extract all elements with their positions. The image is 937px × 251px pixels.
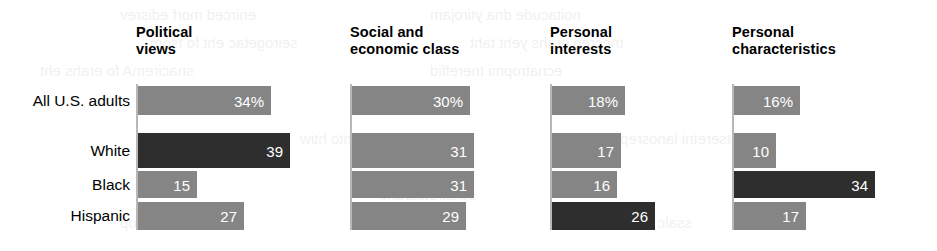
bar-personal-interests-hispanic: 26 [552, 202, 655, 230]
bar-political-views-black: 15 [138, 171, 197, 198]
bar-value-label: 26 [631, 209, 648, 224]
bar-value-label: 17 [782, 209, 799, 224]
bar-value-label: 15 [173, 177, 190, 192]
panel-personal-characteristics: Personal characteristics 16% 10 34 17 [732, 0, 937, 251]
panel-title-personal-interests: Personal interests [550, 24, 612, 58]
bar-value-label: 30% [433, 93, 463, 108]
bar-personal-characteristics-white: 10 [734, 133, 776, 168]
bar-political-views-hispanic: 27 [138, 202, 244, 230]
panel-personal-interests: Personal interests 18% 17 16 26 [550, 0, 730, 251]
row-label-hispanic: Hispanic [0, 208, 130, 224]
bar-social-and-economic-class-white: 31 [352, 133, 474, 168]
bar-social-and-economic-class-hispanic: 29 [352, 202, 466, 230]
bar-personal-interests-black: 16 [552, 171, 617, 198]
panel-title-political-views: Political views [136, 24, 193, 58]
bar-value-label: 16% [763, 93, 793, 108]
bar-personal-interests-all-us-adults: 18% [552, 86, 625, 115]
bar-personal-interests-white: 17 [552, 133, 621, 168]
bar-value-label: 39 [266, 143, 283, 158]
bar-political-views-all-us-adults: 34% [138, 86, 271, 115]
bar-value-label: 27 [220, 209, 237, 224]
bar-value-label: 18% [588, 93, 618, 108]
bar-personal-characteristics-black: 34 [734, 171, 875, 198]
bar-value-label: 29 [442, 209, 459, 224]
bar-value-label: 16 [593, 177, 610, 192]
row-label-all-us-adults: All U.S. adults [0, 93, 130, 109]
bar-value-label: 34% [234, 93, 264, 108]
row-label-black: Black [0, 177, 130, 193]
panel-title-personal-characteristics: Personal characteristics [732, 24, 836, 58]
panel-title-social-and-economic-class: Social and economic class [350, 24, 459, 58]
bar-value-label: 10 [752, 143, 769, 158]
bar-value-label: 17 [597, 143, 614, 158]
grouped-bar-chart: enirced morf edisrev noitacude dna ytiro… [0, 0, 937, 251]
bar-value-label: 34 [851, 177, 868, 192]
bar-personal-characteristics-all-us-adults: 16% [734, 86, 800, 115]
row-label-column: All U.S. adults White Black Hispanic [0, 0, 130, 251]
bar-personal-characteristics-hispanic: 17 [734, 202, 806, 230]
bar-social-and-economic-class-all-us-adults: 30% [352, 86, 470, 115]
bar-value-label: 31 [450, 177, 467, 192]
bar-value-label: 31 [450, 143, 467, 158]
panel-social-and-economic-class: Social and economic class 30% 31 31 29 [350, 0, 550, 251]
bar-social-and-economic-class-black: 31 [352, 171, 474, 198]
panel-political-views: Political views 34% 39 15 27 [136, 0, 336, 251]
row-label-white: White [0, 143, 130, 159]
bar-political-views-white: 39 [138, 133, 290, 168]
